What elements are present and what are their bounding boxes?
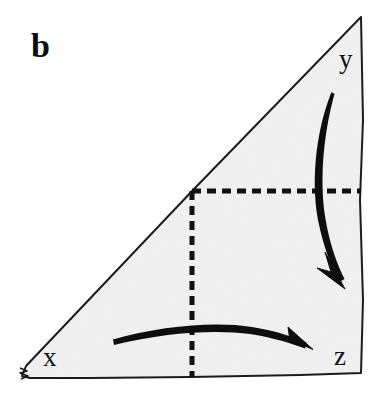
panel-label-b: b [31, 27, 50, 64]
vertex-label-y: y [339, 44, 353, 74]
triangle-diagram: b x y z [0, 0, 386, 405]
figure-panel-b: b x y z [0, 0, 386, 405]
vertex-label-x: x [43, 342, 57, 372]
vertex-label-z: z [334, 341, 346, 371]
